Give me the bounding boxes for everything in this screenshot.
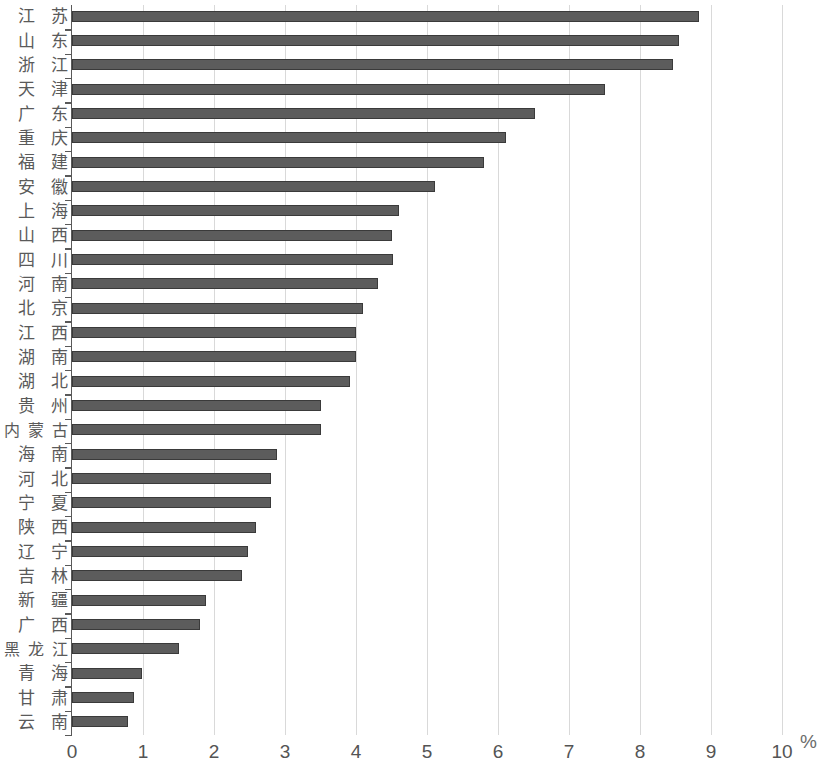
x-axis-unit-label: % [800, 731, 817, 753]
label-char: 京 [51, 299, 68, 319]
label-char: 安 [18, 178, 35, 198]
bar [72, 692, 134, 703]
label-char: 海 [51, 664, 68, 684]
bar [72, 84, 605, 95]
y-axis-tick [65, 516, 72, 517]
category-label: 浙江 [4, 56, 68, 76]
label-char: 青 [18, 664, 35, 684]
label-char: 新 [18, 591, 35, 611]
label-char: 南 [51, 713, 68, 733]
label-char: 东 [51, 105, 68, 125]
y-axis-tick [65, 711, 72, 712]
bar [72, 522, 256, 533]
y-axis-tick [65, 248, 72, 249]
label-char: 陕 [18, 518, 35, 538]
y-axis-tick [65, 29, 72, 30]
bar [72, 205, 399, 216]
y-axis-tick [65, 273, 72, 274]
label-char: 庆 [51, 129, 68, 149]
category-label: 山西 [4, 226, 68, 246]
y-axis-tick [65, 297, 72, 298]
category-label: 辽宁 [4, 543, 68, 563]
bar [72, 716, 128, 727]
y-axis-tick [65, 54, 72, 55]
y-axis-tick [65, 686, 72, 687]
category-label: 吉林 [4, 567, 68, 587]
category-label: 安徽 [4, 178, 68, 198]
bar-chart: 江苏山东浙江天津广东重庆福建安徽上海山西四川河南北京江西湖南湖北贵州内蒙古海南河… [0, 0, 837, 770]
label-char: 西 [51, 616, 68, 636]
label-char: 四 [18, 251, 35, 271]
bar [72, 400, 321, 411]
label-char: 贵 [18, 397, 35, 417]
category-label: 广西 [4, 616, 68, 636]
y-axis-tick [65, 127, 72, 128]
y-axis-tick [65, 321, 72, 322]
y-axis-tick [65, 224, 72, 225]
bar [72, 35, 679, 46]
gridline [640, 5, 641, 735]
label-char: 天 [18, 80, 35, 100]
x-axis-tick-label: 2 [209, 741, 220, 763]
label-char: 建 [51, 153, 68, 173]
bar [72, 376, 350, 387]
y-axis-tick [65, 662, 72, 663]
label-char: 北 [51, 470, 68, 490]
label-char: 江 [51, 56, 68, 76]
label-char: 辽 [18, 543, 35, 563]
x-axis-tick-label: 1 [138, 741, 149, 763]
label-char: 林 [51, 567, 68, 587]
label-char: 福 [18, 153, 35, 173]
label-char: 海 [18, 445, 35, 465]
bar [72, 619, 200, 630]
label-char: 州 [51, 397, 68, 417]
label-char: 北 [18, 299, 35, 319]
label-char: 南 [51, 348, 68, 368]
label-char: 云 [18, 713, 35, 733]
x-axis-tick-label: 4 [351, 741, 362, 763]
category-label: 新疆 [4, 591, 68, 611]
gridline [711, 5, 712, 735]
label-char: 西 [51, 324, 68, 344]
label-char: 上 [18, 202, 35, 222]
x-axis-tick-label: 10 [771, 741, 792, 763]
label-char: 津 [51, 80, 68, 100]
label-char: 浙 [18, 56, 35, 76]
category-label: 甘肃 [4, 689, 68, 709]
label-char: 宁 [18, 494, 35, 514]
y-axis-tick [65, 102, 72, 103]
label-char: 湖 [18, 348, 35, 368]
category-label: 黑龙江 [4, 640, 68, 660]
label-char: 江 [52, 640, 68, 660]
category-label: 青海 [4, 664, 68, 684]
y-axis-tick [65, 175, 72, 176]
label-char: 宁 [51, 543, 68, 563]
label-char: 肃 [51, 689, 68, 709]
bar [72, 643, 179, 654]
y-axis-tick [65, 735, 72, 736]
category-label: 广东 [4, 105, 68, 125]
y-axis-tick [65, 540, 72, 541]
category-label: 四川 [4, 251, 68, 271]
category-label: 河北 [4, 470, 68, 490]
category-label: 江苏 [4, 7, 68, 27]
label-char: 龙 [28, 640, 44, 660]
category-label: 海南 [4, 445, 68, 465]
label-char: 东 [51, 32, 68, 52]
category-label: 上海 [4, 202, 68, 222]
bar [72, 181, 435, 192]
bar [72, 11, 699, 22]
bar [72, 546, 248, 557]
label-char: 海 [51, 202, 68, 222]
y-axis-tick [65, 638, 72, 639]
category-label: 湖北 [4, 372, 68, 392]
label-char: 北 [51, 372, 68, 392]
plot-area [72, 5, 782, 735]
label-char: 湖 [18, 372, 35, 392]
label-char: 西 [51, 518, 68, 538]
category-label: 江西 [4, 324, 68, 344]
category-label: 贵州 [4, 397, 68, 417]
x-axis-tick-label: 5 [422, 741, 433, 763]
bar [72, 497, 271, 508]
category-label: 河南 [4, 275, 68, 295]
